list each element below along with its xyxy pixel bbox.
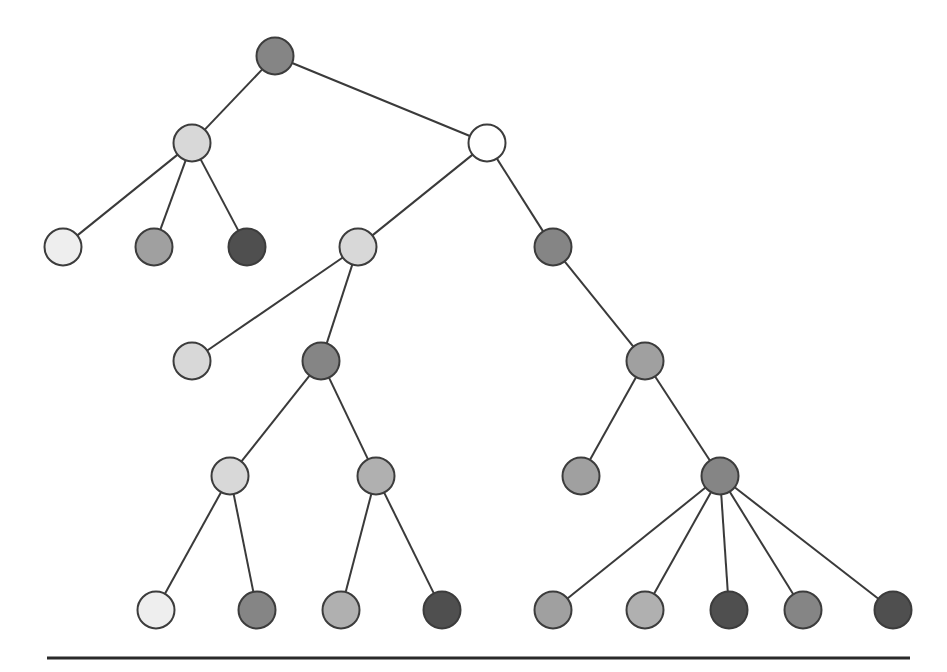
tree-edge <box>241 376 309 462</box>
tree-node <box>340 229 377 266</box>
tree-node <box>239 592 276 629</box>
tree-edge <box>384 493 434 594</box>
tree-node <box>174 125 211 162</box>
tree-edge <box>565 261 634 346</box>
tree-edge <box>721 494 728 591</box>
tree-edge <box>160 160 185 229</box>
tree-edge <box>346 494 372 592</box>
tree-node <box>627 592 664 629</box>
tree-node <box>785 592 822 629</box>
tree-edge <box>327 265 353 344</box>
tree-node <box>627 343 664 380</box>
tree-node <box>323 592 360 629</box>
tree-diagram-canvas <box>0 0 947 672</box>
tree-edge <box>234 494 254 592</box>
tree-edge <box>497 159 543 232</box>
tree-edge <box>329 378 368 460</box>
tree-root-node <box>257 38 294 75</box>
tree-node <box>45 229 82 266</box>
tree-edge <box>654 492 711 594</box>
tree-edge <box>735 487 879 598</box>
tree-node <box>424 592 461 629</box>
tree-node <box>174 343 211 380</box>
tree-edge <box>567 488 705 599</box>
tree-edge <box>201 159 239 230</box>
tree-node <box>702 458 739 495</box>
tree-node <box>563 458 600 495</box>
node-layer <box>45 38 912 629</box>
tree-edge <box>372 155 472 236</box>
tree-edge <box>590 377 636 460</box>
tree-node <box>136 229 173 266</box>
tree-diagram <box>0 0 947 672</box>
tree-edge <box>655 376 710 460</box>
tree-node <box>875 592 912 629</box>
tree-edge <box>207 257 342 350</box>
tree-node <box>469 125 506 162</box>
tree-node <box>711 592 748 629</box>
tree-edge <box>292 63 470 136</box>
tree-node <box>138 592 175 629</box>
tree-edge <box>165 492 221 594</box>
tree-node <box>358 458 395 495</box>
tree-node <box>229 229 266 266</box>
tree-node <box>535 229 572 266</box>
tree-node <box>535 592 572 629</box>
tree-node <box>212 458 249 495</box>
tree-node <box>303 343 340 380</box>
tree-edge <box>205 69 262 129</box>
